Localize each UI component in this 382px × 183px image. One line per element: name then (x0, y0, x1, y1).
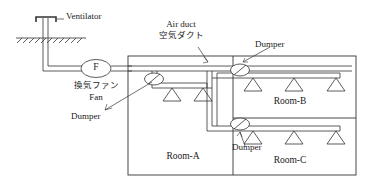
ventilator-icon (36, 17, 56, 22)
damper-icon-room-a (145, 73, 164, 85)
label-room-c: Room-C (255, 156, 325, 166)
label-dumper-a: Dumper (71, 112, 101, 121)
diffuser-group-room-b (244, 78, 345, 91)
diffuser-icon (285, 131, 303, 144)
label-fan-symbol: F (86, 63, 106, 73)
room-c-branch-duct (240, 126, 340, 131)
diffuser-icon (327, 131, 345, 144)
label-room-a: Room-A (148, 152, 218, 162)
damper-icon-room-c (231, 118, 250, 130)
damper-icon-room-b (231, 64, 250, 76)
diffuser-group-room-a (163, 88, 212, 101)
room-b-branch-duct (240, 73, 340, 78)
diagram-canvas: Ventilator Air duct 空気ダクト F 換気ファン Fan Du… (0, 0, 382, 183)
label-ventilator: Ventilator (66, 12, 102, 21)
diffuser-icon (163, 88, 181, 101)
label-air-duct-jp: 空気ダクト (146, 31, 216, 40)
label-dumper-c: Dumper (232, 143, 262, 152)
fan-inlet-duct (43, 66, 82, 71)
diffuser-icon (327, 78, 345, 91)
label-dumper-b: Dumper (255, 40, 285, 49)
label-air-duct-en: Air duct (148, 20, 214, 29)
label-fan-en: Fan (58, 93, 134, 102)
ground-line-icon (16, 38, 86, 43)
fan-outlet-duct (111, 66, 132, 71)
diffuser-icon (285, 78, 303, 91)
diffuser-icon (244, 78, 262, 91)
diffuser-icon (194, 88, 212, 101)
label-fan-jp: 換気ファン (58, 81, 134, 90)
label-room-b: Room-B (255, 97, 325, 107)
riser-duct (43, 18, 48, 71)
